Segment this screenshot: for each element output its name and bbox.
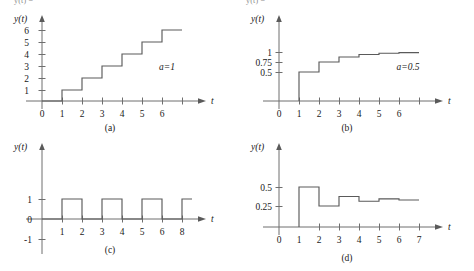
panel-a-x-tick-label: 0 bbox=[40, 109, 45, 119]
panel-a-caption: (a) bbox=[105, 123, 116, 134]
panel-a-x-tick-label: 6 bbox=[160, 109, 165, 119]
panel-c-y-axis-label: y(t) bbox=[13, 142, 27, 153]
panel-d-damped-step-curve bbox=[299, 187, 419, 227]
panel-a-annotation: a=1 bbox=[159, 62, 175, 72]
panel-b-y-axis-arrowhead bbox=[276, 15, 282, 22]
panel-a-y-tick-labels: 1 2 3 4 5 6 bbox=[24, 26, 29, 96]
panel-a-y-axis-arrowhead bbox=[39, 15, 45, 22]
panel-b-y-tick-label: 0.5 bbox=[260, 68, 272, 78]
panel-b-x-tick-label: 3 bbox=[337, 109, 342, 119]
panel-d-y-tick-label: 0.25 bbox=[255, 202, 272, 212]
cropped-top-text-left: y(t) = bbox=[14, 0, 33, 5]
panel-c-x-tick-label: 3 bbox=[100, 227, 105, 237]
panel-b-y-tick-labels: 0.5 0.75 1 bbox=[255, 48, 272, 78]
panel-b-x-tick-label: 1 bbox=[297, 109, 302, 119]
panel-b-x-tick-label: 6 bbox=[397, 109, 402, 119]
panel-d-plot: y(t) t 0.25 0.5 0 bbox=[237, 136, 474, 271]
panel-d-y-axis-arrowhead bbox=[276, 143, 282, 150]
panel-c-plot: y(t) t -1 0 1 bbox=[0, 136, 237, 271]
panel-c-x-tick-label: 8 bbox=[180, 227, 185, 237]
panel-d: y(t) t 0.25 0.5 0 bbox=[237, 136, 474, 271]
panel-c-x-tick-labels: 1 2 3 4 5 6 8 bbox=[60, 227, 185, 237]
panel-d-x-axis-arrowhead bbox=[435, 224, 443, 230]
panel-c-x-axis-label: t bbox=[211, 214, 214, 224]
panel-b: y(t) t 0.5 0.75 1 bbox=[237, 8, 474, 135]
panel-c-x-tick-label: 4 bbox=[120, 227, 125, 237]
panel-a-y-tick-label: 6 bbox=[24, 26, 29, 36]
panel-a-x-tick-label: 5 bbox=[140, 109, 145, 119]
panel-c-caption: (c) bbox=[105, 245, 116, 256]
panel-a-x-tick-label: 4 bbox=[120, 109, 125, 119]
panel-c-y-tick-labels: -1 0 1 bbox=[24, 195, 32, 245]
panel-a-y-tick-label: 5 bbox=[24, 38, 29, 48]
panel-b-x-tick-label: 0 bbox=[277, 109, 282, 119]
panel-b-y-tick-label: 0.75 bbox=[255, 58, 272, 68]
panel-a-y-tick-label: 4 bbox=[24, 50, 29, 60]
panel-a-x-axis-arrowhead bbox=[198, 98, 206, 104]
cropped-top-text-right: y(t) = bbox=[246, 0, 265, 5]
panel-b-caption: (b) bbox=[341, 123, 352, 134]
panel-b-x-axis-arrowhead bbox=[435, 98, 443, 104]
panel-d-x-axis-label: t bbox=[448, 222, 451, 232]
panel-c-x-tick-label: 6 bbox=[160, 227, 165, 237]
panel-d-x-tick-label: 7 bbox=[417, 235, 422, 245]
panel-b-annotation: a=0.5 bbox=[396, 62, 419, 72]
figure-four-panel-step-responses: y(t) = y(t) = y(t) t 1 2 3 4 bbox=[0, 0, 474, 271]
panel-a-x-tick-label: 2 bbox=[80, 109, 85, 119]
panel-b-x-tick-label: 4 bbox=[357, 109, 362, 119]
panel-a-x-axis-label: t bbox=[211, 96, 214, 106]
panel-c-x-tick-label: 1 bbox=[60, 227, 65, 237]
panel-d-y-tick-label: 0.5 bbox=[260, 183, 272, 193]
panel-d-caption: (d) bbox=[341, 253, 352, 264]
panel-c: y(t) t -1 0 1 bbox=[0, 136, 237, 271]
panel-b-x-axis-label: t bbox=[448, 96, 451, 106]
panel-c-y-tick-label: 0 bbox=[27, 215, 32, 225]
panel-a-y-axis-label: y(t) bbox=[13, 14, 27, 25]
panel-c-y-tick-label: -1 bbox=[24, 235, 32, 245]
panel-a-x-tick-labels: 0 1 2 3 4 5 6 bbox=[40, 109, 165, 119]
panel-d-x-tick-labels: 0 1 2 3 4 5 6 7 bbox=[277, 235, 422, 245]
panel-b-x-tick-label: 2 bbox=[317, 109, 322, 119]
panel-d-y-axis-label: y(t) bbox=[250, 142, 264, 153]
panel-c-y-tick-label: 1 bbox=[27, 195, 32, 205]
panel-d-y-tick-labels: 0.25 0.5 bbox=[255, 183, 272, 212]
panel-d-x-tick-label: 0 bbox=[277, 235, 282, 245]
panel-b-plot: y(t) t 0.5 0.75 1 bbox=[237, 8, 474, 135]
panel-c-x-tick-label: 5 bbox=[140, 227, 145, 237]
panel-c-y-axis-arrowhead bbox=[39, 143, 45, 150]
panel-a-x-tick-label: 3 bbox=[100, 109, 105, 119]
panel-d-x-tick-label: 5 bbox=[377, 235, 382, 245]
panel-a-y-tick-label: 2 bbox=[24, 74, 29, 84]
panel-b-x-tick-label: 5 bbox=[377, 109, 382, 119]
panel-a: y(t) t 1 2 3 4 5 6 bbox=[0, 8, 237, 135]
panel-d-x-tick-label: 4 bbox=[357, 235, 362, 245]
panel-a-y-tick-label: 1 bbox=[24, 86, 29, 96]
panel-b-x-tick-labels: 0 1 2 3 4 5 6 bbox=[277, 109, 402, 119]
panel-c-x-axis-arrowhead bbox=[198, 216, 206, 222]
panel-c-x-tick-label: 2 bbox=[80, 227, 85, 237]
panel-c-square-wave-curve bbox=[42, 199, 192, 219]
panel-a-plot: y(t) t 1 2 3 4 5 6 bbox=[0, 8, 237, 135]
panel-a-x-tick-label: 1 bbox=[60, 109, 65, 119]
panel-a-y-tick-label: 3 bbox=[24, 62, 29, 72]
panel-b-step-curve bbox=[299, 53, 419, 101]
panel-b-y-axis-label: y(t) bbox=[250, 14, 264, 25]
panel-d-x-tick-label: 3 bbox=[337, 235, 342, 245]
panel-d-x-tick-label: 1 bbox=[297, 235, 302, 245]
panel-d-x-tick-label: 2 bbox=[317, 235, 322, 245]
panel-d-x-tick-label: 6 bbox=[397, 235, 402, 245]
panel-b-y-tick-label: 1 bbox=[267, 48, 272, 58]
